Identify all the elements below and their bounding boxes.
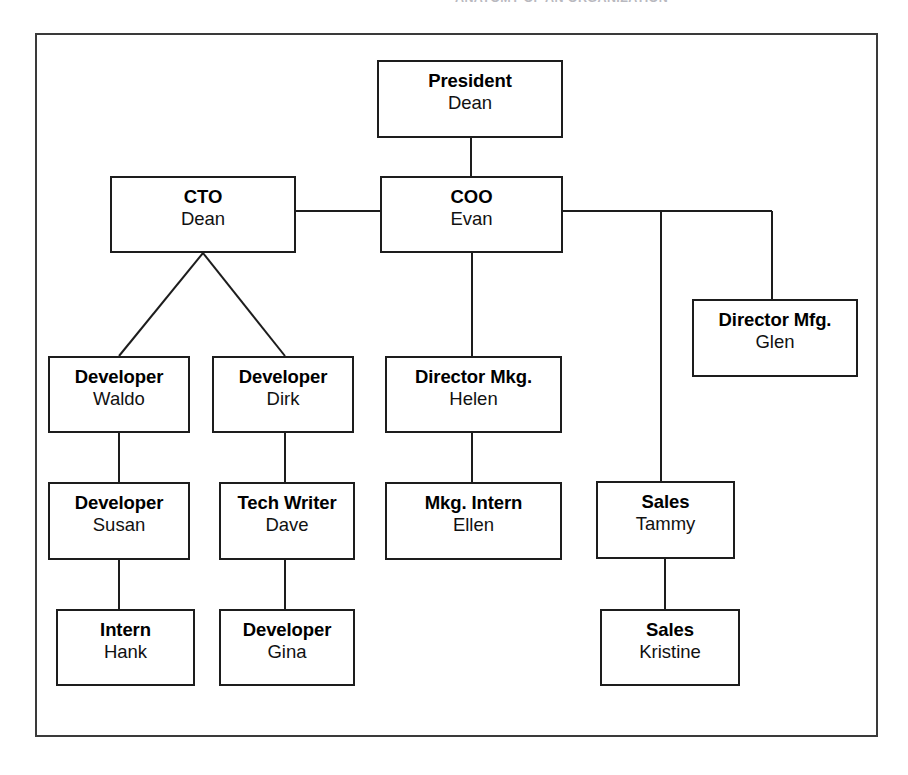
node-sales-tammy[interactable]: Sales Tammy <box>596 481 735 559</box>
node-developer-susan[interactable]: Developer Susan <box>48 482 190 560</box>
node-person: Glen <box>755 331 794 353</box>
node-cto[interactable]: CTO Dean <box>110 176 296 253</box>
node-person: Helen <box>449 388 497 410</box>
node-director-mfg[interactable]: Director Mfg. Glen <box>692 299 858 377</box>
node-title: CTO <box>184 186 222 207</box>
node-person: Susan <box>93 514 145 536</box>
node-developer-gina[interactable]: Developer Gina <box>219 609 355 686</box>
node-title: Developer <box>75 366 164 387</box>
node-title: Sales <box>646 619 694 640</box>
node-title: Developer <box>239 366 328 387</box>
page-canvas: ANATOMY OF AN ORGANIZATION <box>0 0 908 775</box>
node-title: Sales <box>642 491 690 512</box>
node-person: Gina <box>267 641 306 663</box>
node-person: Hank <box>104 641 147 663</box>
node-title: Director Mfg. <box>719 309 832 330</box>
node-person: Ellen <box>453 514 494 536</box>
node-director-mkg[interactable]: Director Mkg. Helen <box>385 356 562 433</box>
node-sales-kristine[interactable]: Sales Kristine <box>600 609 740 686</box>
node-person: Tammy <box>636 513 696 535</box>
node-person: Dirk <box>267 388 300 410</box>
node-tech-writer-dave[interactable]: Tech Writer Dave <box>219 482 355 560</box>
node-title: Developer <box>75 492 164 513</box>
node-person: Dean <box>448 92 492 114</box>
edge-cto-dirk <box>203 253 285 356</box>
edge-cto-waldo <box>119 253 203 356</box>
node-title: Intern <box>100 619 151 640</box>
node-developer-waldo[interactable]: Developer Waldo <box>48 356 190 433</box>
node-person: Evan <box>450 208 492 230</box>
node-title: COO <box>451 186 493 207</box>
node-title: President <box>428 70 511 91</box>
node-coo[interactable]: COO Evan <box>380 176 563 253</box>
node-intern-hank[interactable]: Intern Hank <box>56 609 195 686</box>
node-title: Tech Writer <box>238 492 337 513</box>
node-developer-dirk[interactable]: Developer Dirk <box>212 356 354 433</box>
node-person: Dave <box>265 514 308 536</box>
node-person: Waldo <box>93 388 145 410</box>
node-person: Kristine <box>639 641 701 663</box>
node-title: Director Mkg. <box>415 366 532 387</box>
node-person: Dean <box>181 208 225 230</box>
node-title: Developer <box>243 619 332 640</box>
node-president[interactable]: President Dean <box>377 60 563 138</box>
node-mkg-intern-ellen[interactable]: Mkg. Intern Ellen <box>385 482 562 560</box>
node-title: Mkg. Intern <box>425 492 523 513</box>
